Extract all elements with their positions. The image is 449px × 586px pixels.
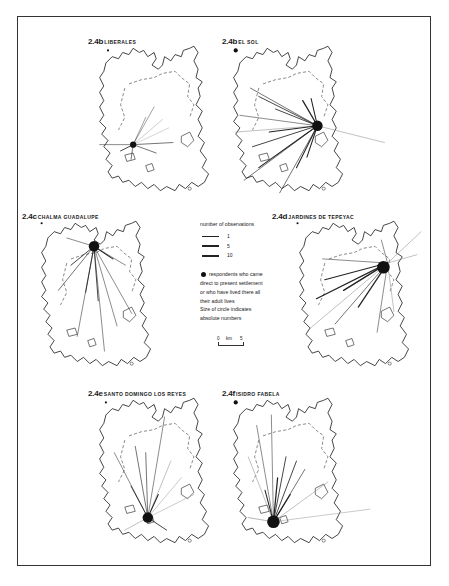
map-panel-santo-domingo-los-reyes: 2.4eSanto Domingo los Reyes <box>88 382 218 562</box>
flow-map-isidro-fabela <box>226 394 346 549</box>
map-panel-el-sol: 2.4bEl Sol <box>222 30 392 195</box>
scale-bar: 0 km 5 <box>217 335 243 347</box>
scale-bar-line <box>218 342 244 346</box>
flow-map-chalma-guadalupe <box>34 217 154 372</box>
flow-map-santo-domingo-los-reyes <box>92 394 212 549</box>
map-panel-chalma-guadalupe: 2.4cChalma Guadalupe <box>22 205 182 375</box>
map-panel-isidro-fabela: 2.4fIsidro Fabela <box>222 382 392 562</box>
flow-map-jardines-de-tepeyac <box>292 217 412 372</box>
map-panel-liberales: 2.4bLiberales <box>88 30 213 195</box>
legend-line-thick <box>202 255 219 257</box>
legend-line-medium <box>202 245 219 246</box>
map-panel-jardines-de-tepeyac: 2.4dJardines de Tepeyac <box>272 205 432 375</box>
legend-line-thin <box>202 236 219 237</box>
flow-map-el-sol <box>226 42 346 197</box>
flow-map-liberales <box>92 42 212 197</box>
filled-circle-icon <box>201 272 206 277</box>
